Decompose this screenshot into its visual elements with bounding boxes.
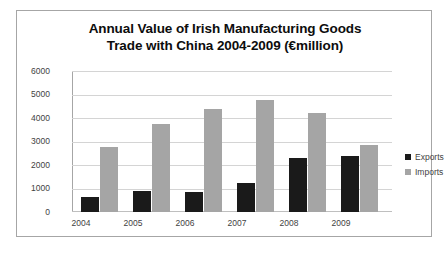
bar-exports-2004[interactable] [81,197,99,212]
bar-exports-2006[interactable] [185,192,203,212]
bar-group-2006 [185,71,229,212]
y-axis-tick-4000: 4000 [10,114,50,123]
legend-label-exports: Exports [415,152,444,162]
chart-frame: Annual Value of Irish Manufacturing Good… [16,10,432,237]
bar-exports-2005[interactable] [133,191,151,212]
x-axis-tick-2005: 2005 [103,218,163,228]
legend-item-exports[interactable]: Exports [405,149,448,164]
bar-imports-2009[interactable] [360,145,378,212]
legend-swatch-exports-icon [405,154,411,160]
bar-imports-2007[interactable] [256,100,274,212]
bar-exports-2009[interactable] [341,156,359,212]
bar-imports-2008[interactable] [308,113,326,212]
legend-label-imports: Imports [415,167,443,177]
y-axis-tick-6000: 6000 [10,67,50,76]
legend-swatch-imports-icon [405,169,411,175]
x-axis-tick-2006: 2006 [155,218,215,228]
x-axis-tick-2004: 2004 [51,218,111,228]
y-axis-tick-1000: 1000 [10,184,50,193]
bar-group-2005 [133,71,177,212]
bar-group-2004 [81,71,125,212]
y-axis-tick-3000: 3000 [10,137,50,146]
x-axis-tick-2007: 2007 [207,218,267,228]
bar-imports-2005[interactable] [152,124,170,212]
bar-imports-2006[interactable] [204,109,222,212]
y-axis-tick-0: 0 [10,208,50,217]
x-axis-tick-2009: 2009 [311,218,371,228]
bar-exports-2007[interactable] [237,183,255,212]
x-axis-tick-2008: 2008 [259,218,319,228]
chart-legend: Exports Imports [405,149,448,179]
chart-title-line-1: Annual Value of Irish Manufacturing Good… [17,20,433,37]
bar-group-2007 [237,71,281,212]
bar-exports-2008[interactable] [289,158,307,212]
bar-group-2008 [289,71,333,212]
legend-item-imports[interactable]: Imports [405,164,448,179]
chart-title-line-2: Trade with China 2004-2009 (€million) [17,37,433,54]
y-axis-tick-2000: 2000 [10,161,50,170]
plot-area [72,71,392,212]
bar-imports-2004[interactable] [100,147,118,212]
bar-group-2009 [341,71,385,212]
chart-title: Annual Value of Irish Manufacturing Good… [17,20,433,54]
y-axis-tick-5000: 5000 [10,90,50,99]
